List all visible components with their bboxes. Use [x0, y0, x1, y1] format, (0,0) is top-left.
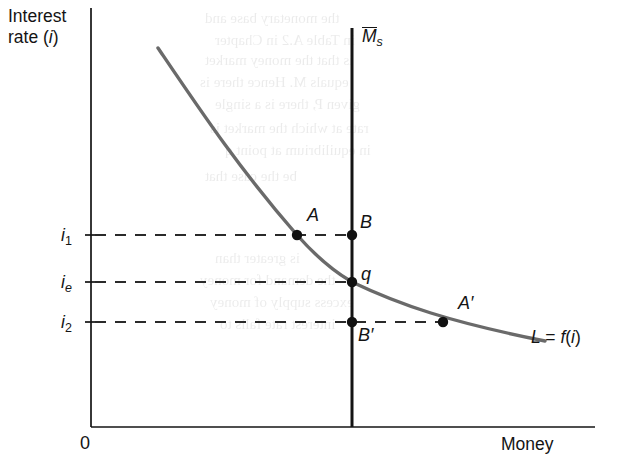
- point-label-A-prime: A′: [458, 293, 473, 314]
- point-label-B-prime: B′: [358, 325, 373, 346]
- diagram-canvas: [0, 0, 627, 467]
- point-A-prime: [438, 317, 448, 327]
- money-supply-label-sub: s: [377, 35, 383, 49]
- origin-label: 0: [80, 433, 90, 454]
- point-B: [347, 230, 357, 240]
- money-supply-label: Ms: [362, 26, 383, 49]
- point-label-q: q: [361, 264, 371, 285]
- y-tick-label-i1: i1: [61, 225, 72, 248]
- y-tick-label-i2-sub: 2: [65, 321, 72, 335]
- money-market-diagram: the monetary base andin Table A.2 in Cha…: [0, 0, 627, 467]
- demand-curve-label-L: L: [531, 327, 540, 347]
- y-tick-label-ie: ie: [61, 272, 72, 295]
- point-A: [292, 230, 302, 240]
- money-supply-label-var: M: [362, 27, 377, 46]
- x-axis-title: Money: [501, 434, 554, 455]
- point-B-prime: [347, 317, 357, 327]
- point-label-B: B: [360, 212, 372, 233]
- y-tick-label-ie-sub: e: [65, 281, 72, 295]
- point-label-A: A: [307, 205, 319, 226]
- y-axis-title: Interest rate (i): [8, 6, 66, 48]
- point-q: [347, 277, 357, 287]
- y-tick-label-i1-sub: 1: [65, 234, 72, 248]
- y-tick-label-i2: i2: [61, 312, 72, 335]
- demand-curve-label-equals: =: [545, 327, 555, 347]
- demand-curve-label-close-paren: ): [575, 327, 581, 347]
- demand-curve-label: L = f(i): [531, 327, 581, 348]
- y-axis-title-line2-suffix: ): [53, 27, 59, 47]
- y-axis-title-line1: Interest: [8, 6, 66, 26]
- y-axis-title-line2-prefix: rate (: [8, 27, 49, 47]
